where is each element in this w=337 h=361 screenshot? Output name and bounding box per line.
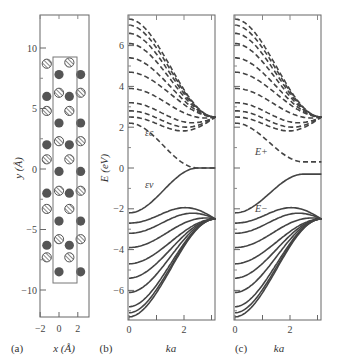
- solid-atom: [42, 189, 51, 198]
- panel-a-label: (a): [11, 342, 24, 355]
- conduction-band-curve: [235, 19, 321, 117]
- valence-band-curve: [129, 219, 215, 264]
- hatched-atom: [42, 106, 51, 115]
- hatched-atom: [42, 204, 51, 213]
- panel-b: 6420−2−4−602 E (eV) ka (b) εc εv: [98, 15, 215, 355]
- hatched-atom: [54, 137, 63, 146]
- highest-valence-band-curve: [235, 174, 321, 213]
- x-tick-label: −2: [35, 323, 46, 334]
- ka-tick-label: 2: [288, 324, 293, 335]
- conduction-band-curve: [129, 72, 215, 117]
- hatched-atom: [65, 253, 74, 262]
- panel-b-label: (b): [100, 342, 113, 355]
- x-tick-label: 2: [75, 323, 80, 334]
- energy-tick-label: 4: [119, 81, 124, 92]
- panel-c: 02 ka (c) E+ E−: [233, 15, 322, 355]
- energy-tick-label: 0: [119, 163, 124, 174]
- solid-atom: [54, 167, 63, 176]
- conduction-band-curve: [235, 58, 321, 117]
- panel-a-ylabel: y (Å): [12, 157, 25, 180]
- hatched-atom: [65, 204, 74, 213]
- panel-a-xlabel: x (Å): [52, 342, 75, 355]
- solid-atom: [54, 118, 63, 127]
- conduction-band-curve: [235, 44, 321, 117]
- solid-atom: [54, 216, 63, 225]
- x-tick-label: 0: [57, 323, 62, 334]
- highest-valence-band-curve: [129, 168, 215, 213]
- panel-c-ticks: 02: [233, 15, 318, 335]
- solid-atom: [42, 92, 51, 101]
- conduction-band-curve: [129, 88, 215, 118]
- conduction-band-curve: [129, 33, 215, 117]
- solid-atom: [42, 241, 51, 250]
- y-tick-label: −10: [21, 285, 37, 296]
- conduction-band-curve: [235, 88, 321, 118]
- conduction-band-label: εc: [145, 127, 154, 138]
- solid-atom: [54, 267, 63, 276]
- solid-atom: [42, 140, 51, 149]
- band-structure-figure: 1050−5−10−202 y (Å) x (Å) (a) 6420−2−4−6…: [0, 0, 337, 361]
- valence-band-label: εv: [145, 179, 154, 190]
- solid-atom: [65, 92, 74, 101]
- conduction-band-curve: [235, 33, 321, 117]
- y-tick-label: 5: [32, 103, 37, 114]
- y-tick-label: 0: [32, 164, 37, 175]
- hatched-atom: [54, 88, 63, 97]
- energy-tick-label: 6: [119, 40, 124, 51]
- lowest-conduction-band-curve: [129, 123, 215, 168]
- solid-atom: [65, 189, 74, 198]
- valence-band-curve: [129, 219, 215, 278]
- solid-atom: [54, 70, 63, 79]
- panel-c-label: (c): [235, 342, 248, 355]
- y-tick-label: −5: [26, 224, 37, 235]
- hatched-atom: [42, 253, 51, 262]
- atom-sites: [42, 58, 85, 277]
- conduction-band-curve: [129, 25, 215, 117]
- ka-tick-label: 0: [233, 324, 238, 335]
- hatched-atom: [42, 59, 51, 68]
- ka-tick-label: 0: [127, 324, 132, 335]
- hatched-atom: [65, 106, 74, 115]
- y-tick-label: 10: [27, 43, 37, 54]
- conduction-band-curve: [129, 58, 215, 117]
- ka-tick-label: 2: [182, 324, 187, 335]
- solid-atom: [65, 241, 74, 250]
- lower-band-label: E−: [254, 203, 268, 214]
- panel-c-bands: [235, 19, 321, 317]
- energy-tick-label: −4: [113, 244, 124, 255]
- hatched-atom: [42, 155, 51, 164]
- energy-tick-label: 2: [119, 122, 124, 133]
- valence-band-curve: [235, 219, 321, 278]
- conduction-band-curve: [235, 25, 321, 117]
- panel-b-ylabel: E (eV): [98, 153, 111, 183]
- valence-band-curve: [235, 219, 321, 264]
- energy-tick-label: −6: [113, 285, 124, 296]
- hatched-atom: [65, 58, 74, 67]
- solid-atom: [65, 140, 74, 149]
- panel-a: 1050−5−10−202 y (Å) x (Å) (a): [11, 15, 89, 355]
- hatched-atom: [54, 186, 63, 195]
- conduction-band-curve: [129, 19, 215, 117]
- panel-b-bands: [129, 19, 215, 317]
- energy-tick-label: −2: [113, 203, 124, 214]
- panel-c-xlabel: ka: [274, 342, 285, 354]
- hatched-atom: [54, 235, 63, 244]
- conduction-band-curve: [235, 72, 321, 117]
- panel-b-xlabel: ka: [166, 342, 177, 354]
- upper-band-label: E+: [254, 146, 268, 157]
- hatched-atom: [65, 155, 74, 164]
- lowest-conduction-band-curve: [235, 123, 321, 162]
- conduction-band-curve: [129, 44, 215, 117]
